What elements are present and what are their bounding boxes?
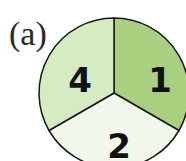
sector-1-number: 1 <box>148 60 172 100</box>
spinner: 1 2 4 <box>0 0 186 161</box>
sector-2-number: 2 <box>107 126 131 161</box>
sector-4-number: 4 <box>68 60 92 100</box>
